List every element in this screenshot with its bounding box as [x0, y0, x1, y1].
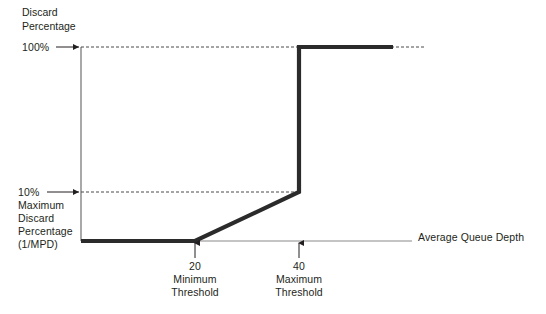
discard-percentage-curve	[81, 47, 393, 241]
plot-area	[0, 0, 546, 314]
chart-figure: Discard Percentage 100% 10%MaximumDiscar…	[0, 0, 546, 314]
